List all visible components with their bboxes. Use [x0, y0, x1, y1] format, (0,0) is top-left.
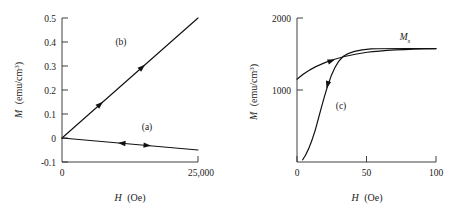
axis-left-panel: [62, 18, 198, 162]
x-axis-unit: (Oe): [364, 192, 382, 204]
chart-panel-left: 0.5 0.4 0.3 0.2 0.1 0 -0.1 0 25,000 M (e…: [0, 0, 231, 215]
y-axis-symbol: M: [248, 111, 259, 121]
saturation-magnetization-label: Ms: [399, 32, 411, 45]
axis-right-panel: [297, 18, 436, 162]
x-axis-title: H (Oe): [350, 192, 382, 204]
x-axis-symbol: H: [350, 192, 359, 203]
y-axis-title: M (emu/cm3): [13, 62, 25, 119]
y-axis-unit-close: ): [248, 64, 260, 67]
demagnetization-branch-line: [297, 49, 436, 80]
series-c-line: [303, 48, 436, 159]
x-tick-label-100: 100: [429, 168, 444, 178]
y-tick-label-2: 0.3: [44, 62, 56, 72]
series-a: (a): [62, 122, 198, 150]
svg-text:M (emu/cm3): M (emu/cm3): [248, 64, 260, 121]
series-c-label: (c): [336, 101, 347, 112]
y-tick-label-3: 0.2: [44, 86, 56, 96]
series-a-line: [62, 138, 198, 150]
series-c: (c): [303, 48, 436, 159]
series-b-line: [62, 18, 198, 138]
y-tick-label-4: 0.1: [44, 110, 56, 120]
series-b-label: (b): [115, 37, 126, 48]
svg-text:M (emu/cm3): M (emu/cm3): [13, 62, 25, 119]
y-axis-unit: (emu/cm: [13, 69, 25, 105]
x-tick-label-1: 25,000: [188, 168, 214, 178]
x-tick-label-0: 0: [60, 168, 65, 178]
demagnetization-branch-arrow: [327, 57, 336, 65]
ms-subscript: s: [408, 37, 411, 45]
chart-panel-right: 2000 1000 0 50 100 M (emu/cm3) H (Oe): [231, 0, 462, 215]
x-tick-label-0: 0: [295, 168, 300, 178]
y-axis-title: M (emu/cm3): [248, 64, 260, 121]
series-a-arrow-2: [143, 142, 151, 148]
series-demagnetization-branch: [297, 49, 436, 80]
y-tick-label-0: 0.5: [44, 14, 56, 24]
y-tick-label-1000: 1000: [272, 86, 291, 96]
series-b: (b): [62, 18, 198, 138]
x-axis-unit: (Oe): [127, 192, 145, 204]
y-tick-label-6: -0.1: [41, 158, 56, 168]
y-tick-label-5: 0: [51, 134, 56, 144]
x-tick-label-50: 50: [362, 168, 372, 178]
y-axis-unit-close: ): [13, 62, 25, 65]
magnetization-figure: 0.5 0.4 0.3 0.2 0.1 0 -0.1 0 25,000 M (e…: [0, 0, 462, 215]
x-axis-title: H (Oe): [113, 192, 145, 204]
y-axis-unit: (emu/cm: [248, 71, 260, 107]
x-axis-symbol: H: [113, 192, 122, 203]
series-a-label: (a): [142, 122, 153, 133]
y-tick-label-2000: 2000: [272, 14, 291, 24]
series-a-arrow-1: [118, 140, 126, 146]
y-axis-symbol: M: [13, 109, 24, 119]
y-tick-label-1: 0.4: [44, 38, 56, 48]
